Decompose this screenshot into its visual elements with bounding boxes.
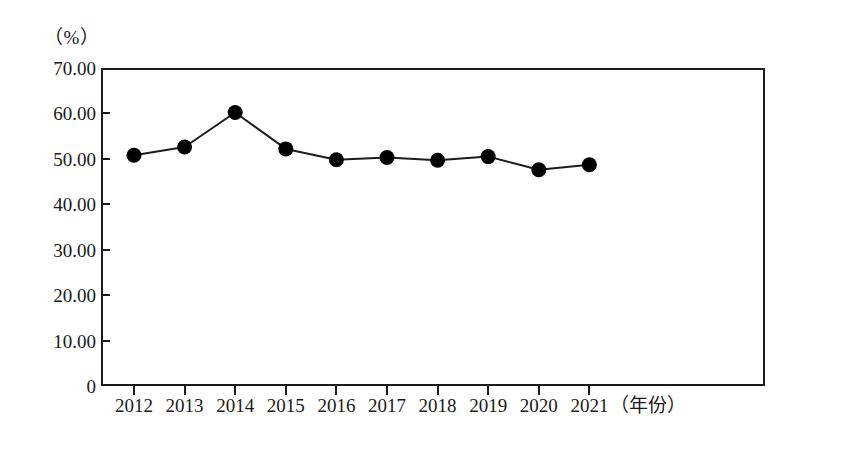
x-axis-tick-mark xyxy=(588,386,590,395)
y-axis-tick-mark xyxy=(101,249,110,251)
y-axis-tick-label: 70.00 xyxy=(12,59,96,78)
plot-area-frame xyxy=(101,68,765,386)
line-chart: （%） 70.0060.0050.0040.0030.0020.0010.000… xyxy=(0,0,859,449)
y-axis-tick-labels: 70.0060.0050.0040.0030.0020.0010.000 xyxy=(8,0,96,449)
y-axis-tick-label: 10.00 xyxy=(12,331,96,350)
y-axis-tick-mark xyxy=(101,158,110,160)
x-axis-tick-mark xyxy=(234,386,236,395)
x-axis-tick-mark xyxy=(335,386,337,395)
y-axis-tick-label: 60.00 xyxy=(12,104,96,123)
y-axis-tick-label: 40.00 xyxy=(12,195,96,214)
y-axis-tick-mark xyxy=(101,112,110,114)
x-axis-tick-mark xyxy=(285,386,287,395)
x-axis-tick-mark xyxy=(487,386,489,395)
y-axis-tick-mark xyxy=(101,340,110,342)
y-axis-tick-label: 0 xyxy=(12,377,96,396)
x-axis-title: （年份） xyxy=(610,396,686,415)
y-axis-tick-label: 30.00 xyxy=(12,240,96,259)
x-axis-tick-mark xyxy=(184,386,186,395)
x-axis-tick-mark xyxy=(133,386,135,395)
y-axis-tick-mark xyxy=(101,203,110,205)
y-axis-tick-label: 20.00 xyxy=(12,286,96,305)
y-axis-tick-label: 50.00 xyxy=(12,149,96,168)
x-axis-tick-mark xyxy=(437,386,439,395)
x-axis-tick-mark xyxy=(538,386,540,395)
y-axis-tick-mark xyxy=(101,294,110,296)
x-axis-tick-mark xyxy=(386,386,388,395)
